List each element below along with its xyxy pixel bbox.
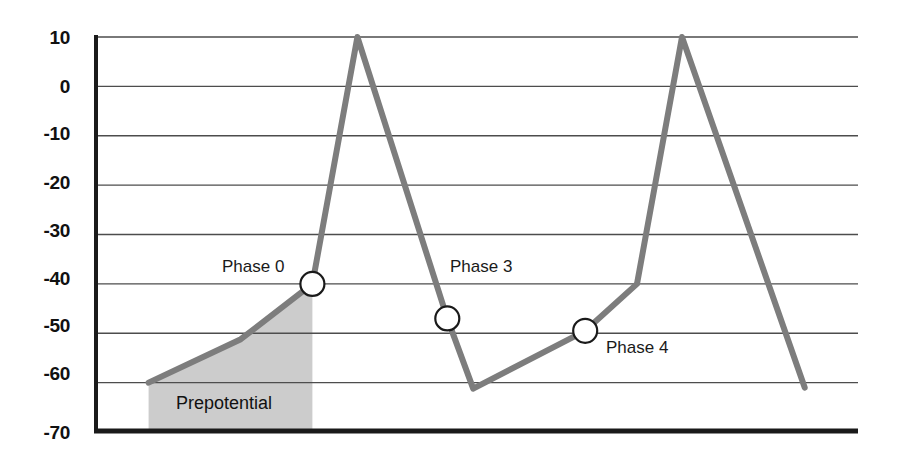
phase-4-label: Phase 4 xyxy=(606,339,668,356)
action-potential-chart: 10 0 -10 -20 -30 -40 -50 -60 -70 Phase 0… xyxy=(0,0,900,470)
phase-3-marker xyxy=(435,306,459,330)
y-tick-label-m40: -40 xyxy=(10,269,70,288)
y-tick-label-m20: -20 xyxy=(10,173,70,192)
membrane-potential-trace xyxy=(149,37,805,389)
phase-markers xyxy=(300,272,597,343)
y-tick-label-m10: -10 xyxy=(10,124,70,143)
y-tick-label-m60: -60 xyxy=(10,364,70,383)
phase-0-marker xyxy=(300,272,324,296)
phase-4-marker xyxy=(573,319,597,343)
phase-3-label: Phase 3 xyxy=(450,258,512,275)
y-tick-label-10: 10 xyxy=(10,28,70,47)
y-tick-label-m70: -70 xyxy=(10,423,70,442)
y-tick-label-m50: -50 xyxy=(10,316,70,335)
y-tick-label-m30: -30 xyxy=(10,221,70,240)
phase-0-label: Phase 0 xyxy=(222,258,284,275)
prepotential-label: Prepotential xyxy=(176,394,272,412)
y-tick-label-0: 0 xyxy=(10,77,70,96)
chart-plot-area xyxy=(0,0,900,470)
